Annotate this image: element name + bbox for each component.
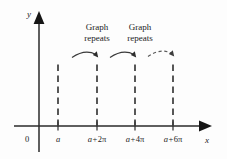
- figure-canvas: [0, 0, 227, 159]
- repeat-arrow-dashed: [148, 51, 172, 56]
- annotation-line-2: repeats: [84, 33, 109, 44]
- tick-term: 4π: [136, 134, 145, 144]
- graph-repeats-annotation-2: Graph repeats: [127, 22, 152, 43]
- tick-base: a: [56, 134, 60, 144]
- x-tick-label-a-plus-2pi: a+2π: [88, 135, 107, 144]
- origin-label: 0: [25, 135, 29, 144]
- repeat-arrow-solid: [72, 52, 96, 57]
- repeat-arrow-solid: [110, 52, 134, 57]
- tick-term: 2π: [98, 134, 107, 144]
- x-axis-label: x: [205, 136, 209, 145]
- periodicity-figure: y x 0 a a+2π a+4π a+6π Graph repeats Gra…: [0, 0, 227, 159]
- graph-repeats-annotation-1: Graph repeats: [84, 22, 109, 43]
- x-axis-arrowhead: [199, 121, 212, 132]
- annotation-line-1: Graph: [84, 22, 109, 33]
- repeat-arrow-head: [131, 51, 136, 57]
- y-axis-arrowhead: [34, 11, 45, 24]
- repeat-arrow-head: [93, 51, 98, 57]
- x-tick-label-a: a: [56, 135, 60, 144]
- tick-term: 6π: [174, 134, 183, 144]
- annotation-line-2: repeats: [127, 33, 152, 44]
- repeat-arrow-head: [169, 50, 174, 56]
- x-tick-label-a-plus-4pi: a+4π: [126, 135, 145, 144]
- annotation-line-1: Graph: [127, 22, 152, 33]
- y-axis-label: y: [27, 10, 31, 19]
- x-tick-label-a-plus-6pi: a+6π: [164, 135, 183, 144]
